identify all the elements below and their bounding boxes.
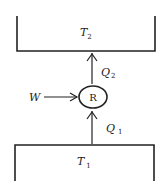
device-label: R bbox=[89, 92, 97, 103]
work-label: W bbox=[29, 91, 42, 104]
hot-reservoir: T2 bbox=[17, 16, 155, 51]
cold-reservoir-label: T1 bbox=[77, 155, 91, 170]
cold-reservoir: T1 bbox=[15, 145, 154, 181]
work-input-arrow: W bbox=[29, 91, 77, 104]
heat-out-label: Q2 bbox=[101, 66, 116, 80]
diagram-canvas: T2 Q2 R W Q1 T1 bbox=[0, 0, 166, 189]
heat-out-arrow: Q2 bbox=[87, 53, 116, 84]
hot-reservoir-label: T2 bbox=[80, 26, 92, 41]
heat-in-arrow: Q1 bbox=[87, 111, 123, 144]
heat-in-label: Q1 bbox=[106, 122, 123, 136]
device-r: R bbox=[79, 86, 107, 108]
